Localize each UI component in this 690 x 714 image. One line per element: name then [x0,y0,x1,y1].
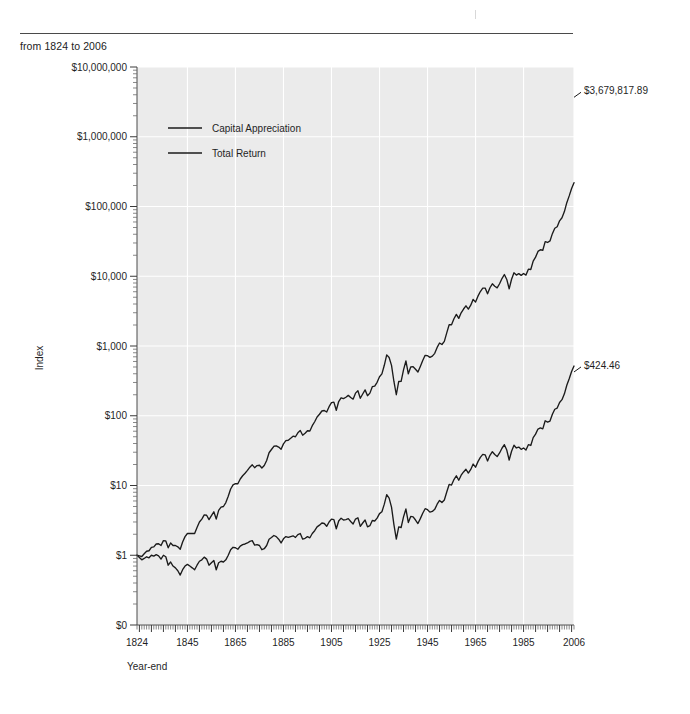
y-axis-tick-label: $100,000 [85,201,127,212]
x-axis-tick-label: 1985 [512,637,535,648]
x-axis-tick-label: 1945 [416,637,439,648]
y-axis-tick-label: $0 [116,620,128,631]
x-axis-tick-label: 2006 [563,637,586,648]
end-value-annotations: $3,679,817.89$424.46 [574,85,648,372]
annotation-leader [574,367,581,372]
x-axis-tick-label: 1905 [320,637,343,648]
annotation-capital-appreciation-end: $424.46 [584,360,621,371]
y-axis-tick-label: $1,000,000 [77,131,127,142]
annotation-leader [574,92,581,97]
x-axis-tick-label: 1965 [464,637,487,648]
x-axis-tick-label: 1845 [176,637,199,648]
y-axis-tick-label: $10,000 [91,271,128,282]
y-axis-tick-label: $10,000,000 [71,62,127,73]
y-axis: $0$1$10$100$1,000$10,000$100,000$1,000,0… [71,62,137,631]
y-axis-tick-label: $1 [116,550,128,561]
x-axis-title: Year-end [127,661,167,672]
x-axis-tick-label: 1885 [272,637,295,648]
chart-page: from 1824 to 2006 $0$1$10$100$1,000$10,0… [0,0,690,714]
legend-label: Total Return [212,148,266,159]
legend-label: Capital Appreciation [212,123,301,134]
x-axis-tick-label: 1925 [368,637,391,648]
y-axis-tick-label: $10 [110,480,127,491]
annotation-total-return-end: $3,679,817.89 [584,85,648,96]
y-axis-tick-label: $100 [105,410,128,421]
x-axis-tick-label: 1824 [126,637,149,648]
index-growth-line-chart: $0$1$10$100$1,000$10,000$100,000$1,000,0… [0,0,690,714]
x-axis: 1824184518651885190519251945196519852006 [126,625,586,648]
y-axis-tick-label: $1,000 [96,341,127,352]
x-axis-tick-label: 1865 [224,637,247,648]
y-axis-title: Index [34,346,45,370]
